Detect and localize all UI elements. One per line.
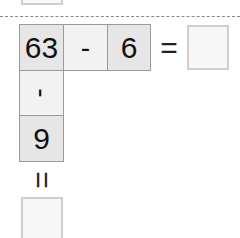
row-equals-sign: = bbox=[155, 24, 183, 71]
column-equals-sign: = bbox=[19, 166, 64, 194]
row-answer-box[interactable] bbox=[187, 25, 229, 70]
dashed-divider bbox=[0, 16, 240, 17]
row-first-number: 63 bbox=[19, 24, 64, 71]
column-operator: - bbox=[19, 70, 64, 116]
column-operator-text: - bbox=[25, 88, 57, 97]
row-operator: - bbox=[63, 24, 108, 71]
column-second-number: 9 bbox=[19, 115, 64, 162]
previous-answer-box[interactable] bbox=[21, 0, 63, 5]
column-answer-box[interactable] bbox=[21, 197, 63, 238]
row-second-number: 6 bbox=[107, 24, 151, 71]
column-equals-text: = bbox=[25, 171, 59, 189]
